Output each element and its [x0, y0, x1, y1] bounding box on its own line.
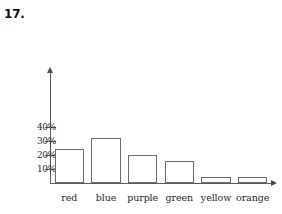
bar-green: [165, 161, 194, 183]
x-axis-label-yellow: yellow: [198, 192, 235, 203]
plot-area: 40% 30% 20% 10% red blue purple green ye…: [0, 0, 282, 214]
y-tick-row: 20%: [0, 151, 56, 160]
x-axis-line: [50, 183, 272, 184]
y-axis-label-20: 20%: [16, 151, 56, 160]
y-axis-label-40: 40%: [16, 123, 56, 132]
y-axis-arrow-icon: [47, 67, 53, 73]
bar-yellow: [201, 177, 230, 183]
x-axis-label-green: green: [161, 192, 198, 203]
y-tick-row: 30%: [0, 137, 56, 146]
x-axis-label-purple: purple: [124, 192, 161, 203]
x-axis-label-red: red: [51, 192, 88, 203]
bar-orange: [238, 177, 267, 183]
x-axis-arrow-icon: [271, 180, 277, 186]
x-axis-label-blue: blue: [88, 192, 125, 203]
bar-red: [55, 149, 84, 183]
y-tick-row: 40%: [0, 123, 56, 132]
y-tick-row: 10%: [0, 165, 56, 174]
bar-blue: [91, 138, 120, 183]
bar-purple: [128, 155, 157, 183]
y-axis-label-10: 10%: [16, 165, 56, 174]
x-axis-label-orange: orange: [234, 192, 271, 203]
y-axis-label-30: 30%: [16, 137, 56, 146]
bar-chart-figure: 17. 40% 30% 20% 10% red: [0, 0, 282, 214]
